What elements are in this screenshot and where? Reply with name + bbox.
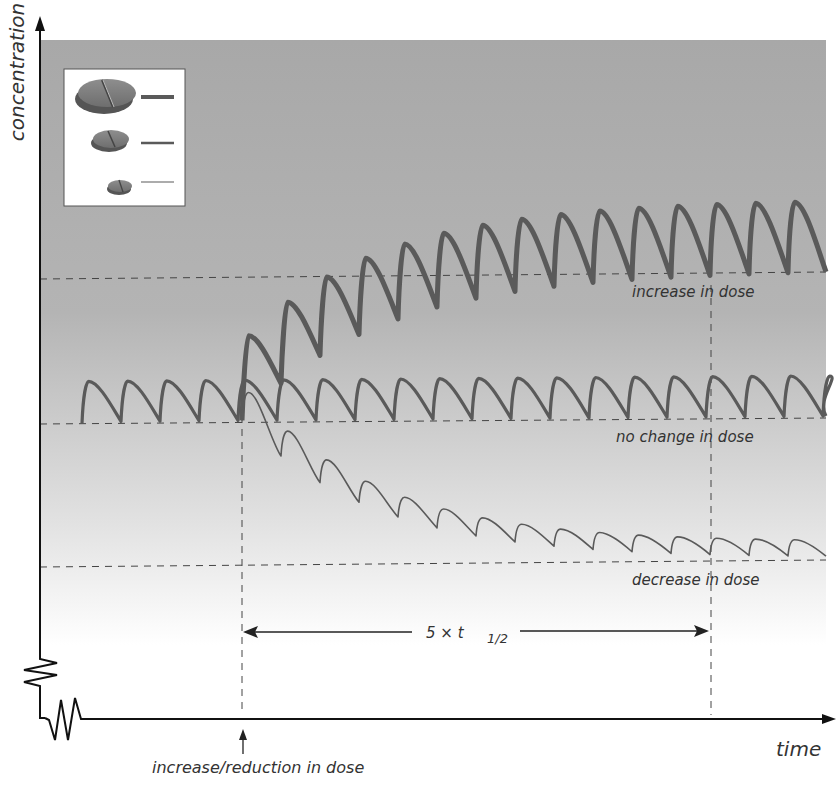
- x-axis-arrow-icon: [822, 714, 836, 724]
- dose-change-arrow-icon: [239, 729, 247, 740]
- dose-change-label: increase/reduction in dose: [152, 758, 364, 777]
- y-axis-label: concentration: [5, 0, 29, 147]
- axis-break-y-icon: [24, 654, 57, 718]
- x-axis-label: time: [776, 737, 821, 761]
- small-tablet-icon: [107, 180, 132, 195]
- increase-in-dose-label: increase in dose: [632, 283, 755, 301]
- no-change-in-dose-label: no change in dose: [616, 428, 754, 446]
- half-life-span-label: 5 × t: [426, 624, 465, 642]
- half-life-subscript: 1/2: [487, 631, 508, 646]
- decrease-in-dose-label: decrease in dose: [632, 571, 760, 589]
- x-axis: [45, 698, 826, 740]
- axis-break-x-icon: [45, 698, 826, 740]
- y-axis-arrow-icon: [35, 16, 45, 31]
- pharmacokinetics-diagram: increase in dose no change in dose decre…: [0, 0, 837, 797]
- legend: [64, 69, 185, 206]
